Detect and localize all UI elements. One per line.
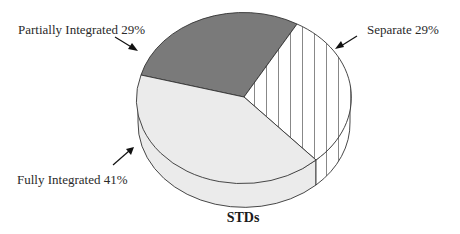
chart-title: STDs [227,210,260,225]
arrow-icon [126,147,134,155]
svg-text:Partially Integrated 29%: Partially Integrated 29% [18,22,145,37]
svg-text:Separate 29%: Separate 29% [367,22,439,37]
arrow-icon [335,41,344,49]
arrow-icon [128,43,138,51]
label-separate: Separate 29% [335,22,439,49]
svg-text:Fully Integrated 41%: Fully Integrated 41% [17,172,128,187]
pie-chart: Partially Integrated 29% Separate 29% Fu… [0,0,460,234]
label-partially-integrated: Partially Integrated 29% [18,22,145,51]
label-fully-integrated: Fully Integrated 41% [17,147,134,187]
